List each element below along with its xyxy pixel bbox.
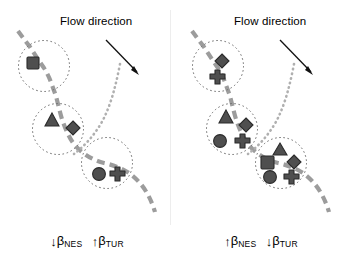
circle-shape — [93, 168, 106, 181]
caption-beta-tur-group: ↑βTUR — [92, 233, 124, 249]
beta-symbol: β — [272, 233, 279, 248]
triangle-shape — [219, 110, 233, 123]
flow-direction-label: Flow direction — [234, 15, 306, 27]
beta-tur-subscript: TUR — [106, 239, 124, 249]
site-downstream-shapes — [93, 167, 125, 181]
caption-beta-tur-group: ↓βTUR — [266, 233, 298, 249]
caption-beta-nes-group: ↑βNES — [224, 233, 256, 249]
diamond-shape — [66, 121, 80, 135]
right-panel-canvas — [174, 0, 348, 263]
cross-shape — [284, 170, 299, 184]
beta-nes-subscript: NES — [238, 239, 256, 249]
flow-direction-arrow — [106, 40, 139, 75]
panel-divider — [170, 10, 171, 225]
main-river-path — [192, 31, 329, 212]
triangle-shape — [273, 143, 287, 155]
square-shape — [261, 156, 274, 169]
flow-direction-label: Flow direction — [60, 15, 132, 27]
tributary-path — [248, 64, 294, 154]
circle-shape — [214, 135, 227, 148]
left-panel-caption: ↓βNES ↑βTUR — [0, 233, 174, 249]
cross-shape — [235, 134, 250, 148]
figure-two-panel-river-diagram: Flow direction ↓βNES ↑βTUR — [0, 0, 348, 263]
site-downstream-shapes — [261, 143, 301, 184]
left-panel-canvas — [0, 0, 174, 263]
tributary-path — [74, 64, 120, 154]
square-shape — [27, 57, 39, 69]
right-panel-caption: ↑βNES ↓βTUR — [174, 233, 348, 249]
flow-direction-arrow — [280, 40, 313, 75]
left-panel: Flow direction ↓βNES ↑βTUR — [0, 0, 174, 263]
beta-nes-subscript: NES — [64, 239, 82, 249]
caption-beta-nes-group: ↓βNES — [50, 233, 82, 249]
site-downstream-circle — [82, 138, 133, 189]
beta-symbol: β — [98, 233, 105, 248]
circle-shape — [264, 171, 277, 184]
triangle-shape — [45, 113, 59, 126]
site-upstream-shapes — [27, 57, 39, 69]
right-panel: Flow direction ↑βNES ↓βTUR — [174, 0, 348, 263]
beta-tur-subscript: TUR — [280, 239, 298, 249]
